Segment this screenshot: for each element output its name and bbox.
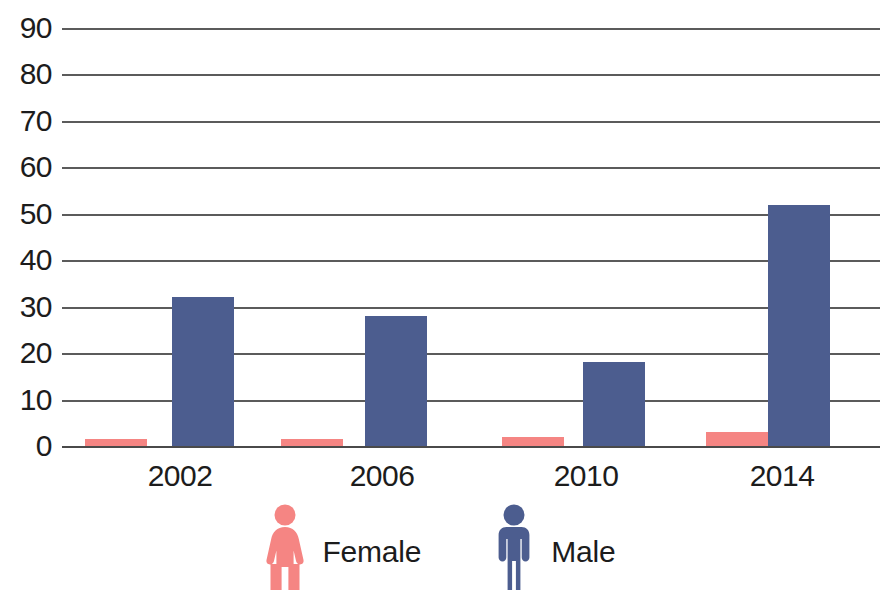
bar-male-2010 xyxy=(583,362,645,446)
bar-female-2002 xyxy=(85,439,147,446)
female-figure-icon xyxy=(264,504,306,592)
bar-male-2014 xyxy=(768,205,830,447)
bar-male-2006 xyxy=(365,316,427,446)
x-axis-labels: 2002 2006 2010 2014 xyxy=(62,458,880,502)
bar-male-2002 xyxy=(172,297,234,446)
legend-item-female: Female xyxy=(264,504,421,592)
x-tick-label-2002: 2002 xyxy=(100,458,260,494)
bars-layer xyxy=(0,0,880,455)
x-tick-label-2010: 2010 xyxy=(506,458,666,494)
bar-female-2006 xyxy=(281,439,343,446)
legend-label-male: Male xyxy=(551,537,615,567)
x-tick-label-2006: 2006 xyxy=(302,458,462,494)
plot-area: 90 80 70 60 50 40 30 20 10 0 xyxy=(0,0,880,455)
legend-label-female: Female xyxy=(322,537,421,567)
bar-chart: 90 80 70 60 50 40 30 20 10 0 2002 2006 2… xyxy=(0,0,880,595)
bar-female-2010 xyxy=(502,437,564,446)
chart-legend: Female Male xyxy=(0,500,880,595)
male-figure-icon xyxy=(493,504,535,592)
x-tick-label-2014: 2014 xyxy=(702,458,862,494)
legend-item-male: Male xyxy=(493,504,615,592)
bar-female-2014 xyxy=(706,432,768,446)
